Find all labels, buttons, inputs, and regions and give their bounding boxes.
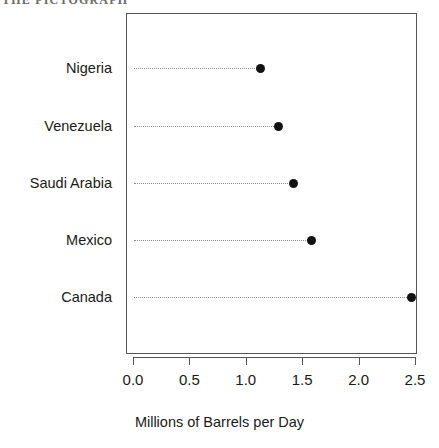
data-point-marker[interactable] [307, 236, 316, 245]
leader-line [134, 297, 407, 299]
x-axis-tick [246, 357, 247, 365]
leader-line [134, 126, 274, 128]
data-point-marker[interactable] [407, 293, 416, 302]
x-axis-tick-label: 2.0 [334, 371, 384, 389]
leader-line [134, 240, 306, 242]
x-axis-tick-label: 0.5 [164, 371, 214, 389]
leader-line [134, 183, 288, 185]
data-point-marker[interactable] [274, 122, 283, 131]
x-axis-line [133, 357, 416, 358]
dot-plot-row: Nigeria [0, 58, 439, 78]
data-point-marker[interactable] [289, 179, 298, 188]
dot-plot-row: Canada [0, 287, 439, 307]
x-axis-tick [133, 357, 134, 365]
page-header-text: THE PICTOGRAPH [2, 0, 142, 6]
dot-plot-row: Venezuela [0, 116, 439, 136]
category-label-venezuela: Venezuela [0, 116, 112, 136]
category-label-canada: Canada [0, 287, 112, 307]
x-axis-tick [415, 357, 416, 365]
x-axis-tick-label: 1.0 [221, 371, 271, 389]
leader-line [134, 68, 255, 70]
category-label-saudi-arabia: Saudi Arabia [0, 173, 112, 193]
category-label-mexico: Mexico [0, 230, 112, 250]
x-axis-tick-label: 2.5 [390, 371, 439, 389]
dot-plot-row: Saudi Arabia [0, 173, 439, 193]
dot-plot-row: Mexico [0, 230, 439, 250]
data-point-marker[interactable] [256, 64, 265, 73]
x-axis-tick [189, 357, 190, 365]
x-axis-tick-label: 1.5 [277, 371, 327, 389]
x-axis-title: Millions of Barrels per Day [0, 414, 439, 430]
page-header-fragment: THE PICTOGRAPH [2, 0, 142, 6]
chart-screenshot: THE PICTOGRAPH NigeriaVenezuelaSaudi Ara… [0, 0, 439, 448]
x-axis-tick [359, 357, 360, 365]
x-axis-tick [302, 357, 303, 365]
x-axis-tick-label: 0.0 [108, 371, 158, 389]
category-label-nigeria: Nigeria [0, 58, 112, 78]
